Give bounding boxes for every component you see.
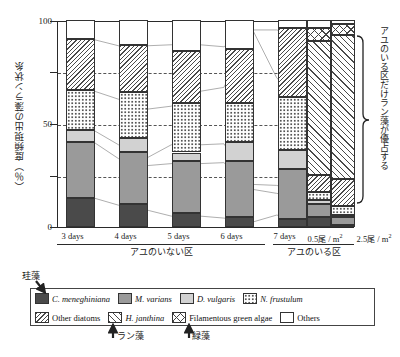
segment-other-diatoms: [331, 179, 355, 206]
x-tick-exponent: 2: [388, 233, 391, 239]
legend-item-filamentous-green-algae: Filamentous green algae: [172, 312, 272, 323]
bar-2point5-fish-per-m2: [331, 20, 355, 227]
segment-n-frustulum: [119, 92, 148, 138]
legend-swatch-n-frustulum: [243, 293, 257, 304]
segment-others: [119, 20, 148, 45]
bar-5-days: [172, 20, 201, 227]
legend-label-others: Others: [297, 313, 320, 323]
chart-figure: （％）度頻現出の藻ラン状糸 100 50 0: [0, 0, 400, 357]
legend-label-filamentous-green-algae: Filamentous green algae: [189, 313, 272, 323]
x-tick-value: 2.5: [357, 234, 368, 244]
segment-c-meneghiniana: [66, 198, 95, 227]
bar-7-days: [278, 20, 307, 227]
segment-others: [307, 20, 331, 28]
y-tick-25: [50, 176, 57, 177]
segment-c-meneghiniana: [307, 217, 331, 227]
x-tick-label-3-days: 3 days: [51, 231, 94, 241]
x-tick-label-4-days: 4 days: [104, 231, 147, 241]
x-tick-label-6-days: 6 days: [210, 231, 253, 241]
legend-item-n-frustulum: N. frustulum: [243, 293, 303, 304]
x-tick-label-2point5-fish: 2.5尾 / m2: [343, 231, 400, 245]
legend-label-h-janthina: H. janthina: [125, 313, 164, 323]
segment-h-janthina: [331, 35, 355, 180]
bar-6-days: [225, 20, 254, 227]
segment-m-varians: [307, 204, 331, 216]
y-tick-label-100: 100: [12, 17, 52, 26]
segment-n-frustulum: [278, 97, 307, 151]
legend-swatch-filamentous-green-algae: [172, 312, 186, 323]
legend-swatch-m-varians: [118, 293, 132, 304]
legend-item-other-diatoms: Other diatoms: [35, 312, 100, 323]
segment-other-diatoms: [119, 45, 148, 93]
right-annotation-text: アユのいる区だけラン藻が優占する: [374, 26, 389, 221]
y-tick-label-0: 0: [12, 223, 52, 232]
legend-row-2: Other diatoms H. janthina Filamentous gr…: [31, 308, 374, 327]
segment-n-frustulum: [307, 192, 331, 200]
segment-others: [278, 20, 307, 28]
x-tick-unit: / m: [377, 234, 388, 244]
segment-m-varians: [66, 142, 95, 198]
callout-label-diatom: 珪藻: [22, 271, 40, 281]
group-rule-no-ayu: [57, 244, 265, 245]
segment-c-meneghiniana: [225, 217, 254, 227]
group-rule-with-ayu: [273, 244, 354, 245]
segment-m-varians: [331, 217, 355, 225]
segment-m-varians: [172, 161, 201, 213]
callout-label-cyanobacteria: ラン藻: [117, 331, 144, 341]
segment-d-vulgaris: [225, 142, 254, 161]
legend-item-others: Others: [280, 312, 320, 323]
segment-m-varians: [278, 169, 307, 219]
segment-n-frustulum: [225, 103, 254, 142]
y-tick-0: [50, 227, 57, 228]
legend-row-1: C. meneghiniana M. varians D. vulgaris N…: [31, 289, 374, 308]
bar-3-days: [66, 20, 95, 227]
segment-others: [331, 20, 355, 24]
segment-h-janthina: [307, 41, 331, 176]
segment-c-meneghiniana: [331, 225, 355, 227]
legend-label-c-meneghiniana: C. meneghiniana: [52, 294, 110, 304]
x-tick-unit: / m: [328, 234, 339, 244]
segment-d-vulgaris: [307, 200, 331, 204]
callout-label-green-algae: 緑藻: [192, 331, 210, 341]
segment-m-varians: [119, 152, 148, 204]
segment-n-frustulum: [66, 90, 95, 129]
legend-swatch-h-janthina: [108, 312, 122, 323]
segment-c-meneghiniana: [172, 213, 201, 227]
segment-others: [172, 20, 201, 51]
y-tick-75: [50, 72, 57, 73]
segment-others: [225, 20, 254, 49]
legend-label-other-diatoms: Other diatoms: [52, 313, 100, 323]
legend-item-d-vulgaris: D. vulgaris: [180, 293, 235, 304]
bar-4-days: [119, 20, 148, 227]
segment-d-vulgaris: [278, 150, 307, 169]
legend-item-c-meneghiniana: C. meneghiniana: [35, 293, 110, 304]
segment-filamentous-green-algae: [307, 28, 331, 40]
right-brace: [357, 36, 369, 203]
legend-label-d-vulgaris: D. vulgaris: [197, 294, 235, 304]
y-tick-100: [50, 21, 57, 22]
legend-swatch-other-diatoms: [35, 312, 49, 323]
legend-label-m-varians: M. varians: [135, 294, 172, 304]
segment-others: [66, 20, 95, 39]
bar-0point5-fish-per-m2: [307, 20, 331, 227]
plot-area: [57, 21, 354, 228]
segment-other-diatoms: [307, 175, 331, 192]
legend-item-m-varians: M. varians: [118, 293, 172, 304]
segment-c-meneghiniana: [278, 219, 307, 227]
segment-other-diatoms: [172, 51, 201, 103]
legend-swatch-d-vulgaris: [180, 293, 194, 304]
segment-other-diatoms: [225, 49, 254, 103]
legend-item-h-janthina: H. janthina: [108, 312, 164, 323]
segment-c-meneghiniana: [119, 204, 148, 227]
y-tick-label-50: 50: [12, 120, 52, 129]
legend: C. meneghiniana M. varians D. vulgaris N…: [30, 288, 375, 326]
segment-n-frustulum: [331, 206, 355, 214]
x-tick-label-5-days: 5 days: [157, 231, 200, 241]
segment-other-diatoms: [278, 28, 307, 96]
x-tick-unit-jp: 尾: [367, 235, 375, 244]
x-tick-exponent: 2: [339, 233, 342, 239]
segment-filamentous-green-algae: [331, 24, 355, 34]
legend-label-n-frustulum: N. frustulum: [260, 294, 303, 304]
x-tick-unit-jp: 尾: [318, 235, 326, 244]
legend-swatch-others: [280, 312, 294, 323]
